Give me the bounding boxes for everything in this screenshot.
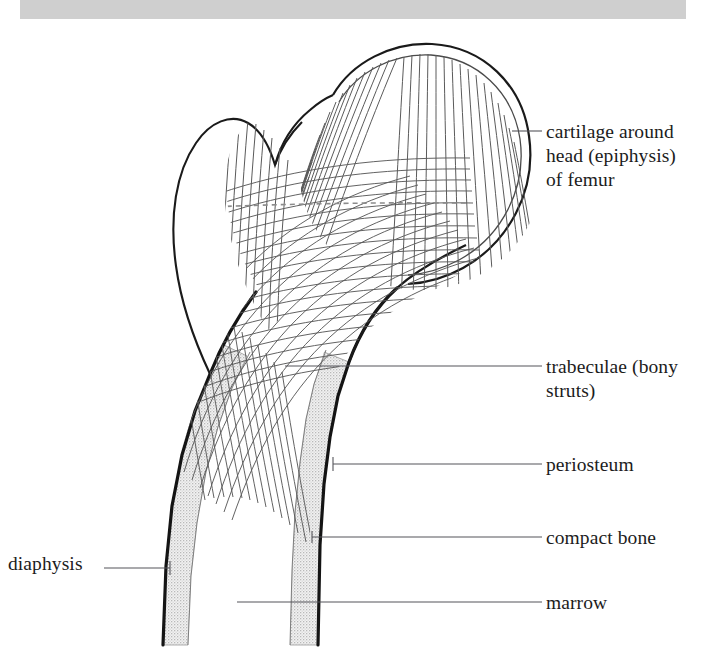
label-marrow: marrow bbox=[546, 591, 607, 615]
trochanter-outline bbox=[173, 119, 302, 374]
label-cartilage-around-head: cartilage around head (epiphysis) of fem… bbox=[546, 120, 676, 192]
label-trabeculae: trabeculae (bony struts) bbox=[546, 355, 678, 403]
figure-page: cartilage around head (epiphysis) of fem… bbox=[0, 0, 724, 661]
label-periosteum: periosteum bbox=[546, 453, 634, 477]
trabeculae-trochanter-vertical bbox=[188, 114, 288, 364]
femur-diagram bbox=[0, 0, 724, 661]
label-diaphysis: diaphysis bbox=[8, 552, 83, 576]
femoral-neck-notch bbox=[275, 95, 333, 165]
label-compact-bone: compact bone bbox=[546, 526, 656, 550]
trabeculae-head-oblique-fan bbox=[266, 58, 397, 335]
calcar-curve bbox=[349, 245, 466, 362]
